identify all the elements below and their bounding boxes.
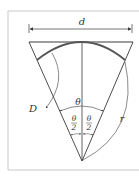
half-angle-right: θ 2 <box>86 114 92 132</box>
half-angle-right-numerator: θ <box>87 114 92 123</box>
half-angle-left: θ 2 <box>71 114 77 132</box>
sector-arc <box>37 42 125 60</box>
arc-length-D: D <box>28 53 59 114</box>
label-theta: θ <box>75 97 81 107</box>
label-d: d <box>79 16 85 27</box>
figure-frame <box>8 11 139 170</box>
sector-diagram: d D θ θ 2 θ 2 r <box>0 0 139 178</box>
central-angle-theta: θ <box>60 97 103 111</box>
radius-r: r <box>83 62 128 160</box>
half-angle-left-denominator: 2 <box>71 123 77 132</box>
dimension-d: d <box>29 16 132 33</box>
half-angle-left-numerator: θ <box>72 114 77 123</box>
half-angle-right-denominator: 2 <box>86 123 92 132</box>
label-D: D <box>28 103 37 114</box>
sector-outline <box>29 42 133 161</box>
label-r: r <box>120 114 125 124</box>
